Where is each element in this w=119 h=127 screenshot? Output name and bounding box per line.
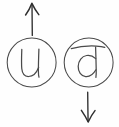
glyph-u-rotated-right: [71, 46, 105, 77]
glyph-u-left: [21, 49, 39, 77]
circle-outline-left: [7, 38, 56, 87]
node-left: [7, 38, 56, 87]
node-right: [64, 38, 113, 87]
letter-u-rotated-overbar: [71, 46, 105, 49]
letter-u-left-bowl: [21, 49, 38, 76]
letter-u-rotated-stem: [96, 47, 97, 77]
down-arrow: [81, 92, 95, 122]
letter-u-rotated-bowl: [78, 55, 96, 76]
up-arrow: [26, 3, 39, 35]
sketch-drawing: [0, 0, 119, 127]
letter-u-left-stem: [38, 49, 39, 77]
figure-canvas: Rotation pair diagram Two hand-drawn cir…: [0, 0, 119, 127]
